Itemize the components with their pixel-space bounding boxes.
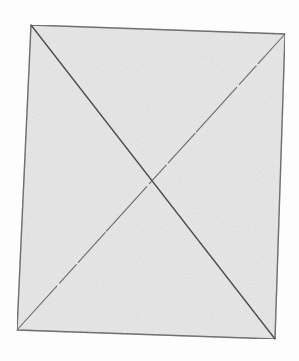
scanned-paper-image — [0, 0, 299, 361]
paper-drawing — [0, 0, 299, 361]
